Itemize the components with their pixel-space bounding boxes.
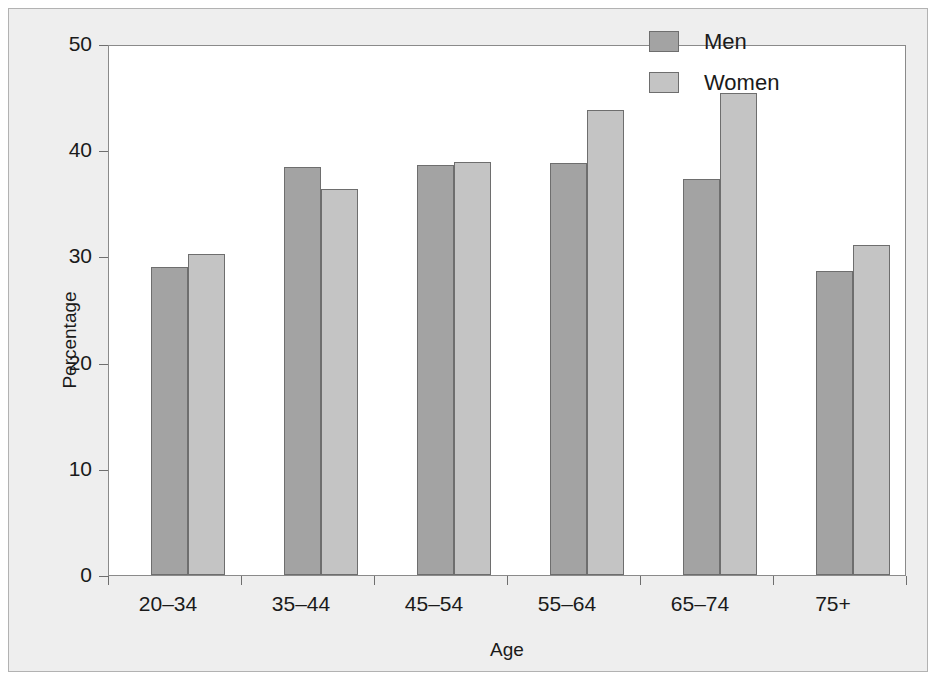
x-tick-mark (906, 576, 907, 585)
x-tick-label: 75+ (773, 592, 893, 616)
men-swatch (649, 31, 679, 52)
bar-women (720, 93, 757, 575)
y-tick-mark (99, 470, 108, 471)
legend-item: Women (649, 62, 799, 103)
bar-group (242, 46, 375, 575)
y-axis-tick: 30 (9, 257, 108, 258)
bar-women (188, 254, 225, 575)
x-tick-mark (507, 576, 508, 585)
bar-men (417, 165, 454, 575)
y-axis-tick: 10 (9, 470, 108, 471)
legend-item: Men (649, 21, 799, 62)
y-tick-label: 30 (69, 244, 92, 268)
x-tick-mark (773, 576, 774, 585)
y-tick-mark (99, 45, 108, 46)
plot-area (108, 45, 906, 576)
y-tick-label: 40 (69, 138, 92, 162)
x-tick-mark (374, 576, 375, 585)
x-tick-mark (108, 576, 109, 585)
bar-men (151, 267, 188, 575)
x-tick-label: 65–74 (640, 592, 760, 616)
bar-women (853, 245, 890, 575)
y-axis-tick: 40 (9, 151, 108, 152)
bar-men (683, 179, 720, 575)
y-tick-label: 50 (69, 32, 92, 56)
y-axis-tick: 50 (9, 45, 108, 46)
bar-men (550, 163, 587, 575)
y-tick-mark (99, 151, 108, 152)
x-axis: 20–3435–4445–5455–6465–7475+ (108, 576, 906, 616)
x-tick-label: 20–34 (108, 592, 228, 616)
y-tick-mark (99, 364, 108, 365)
y-axis-title: Percentage (59, 291, 81, 388)
bar-men (284, 167, 321, 575)
x-tick-label: 45–54 (374, 592, 494, 616)
chart-figure: 01020304050 Percentage 20–3435–4445–5455… (8, 8, 928, 672)
y-tick-label: 10 (69, 457, 92, 481)
y-tick-mark (99, 257, 108, 258)
bar-men (816, 271, 853, 575)
bar-group (375, 46, 508, 575)
x-tick-label: 55–64 (507, 592, 627, 616)
bar-group (774, 46, 907, 575)
y-tick-mark (99, 576, 108, 577)
bar-group (109, 46, 242, 575)
legend-item-label: Men (704, 29, 747, 55)
chart-legend: MenWomen (649, 21, 799, 103)
legend-item-label: Women (704, 70, 779, 96)
x-tick-mark (241, 576, 242, 585)
y-axis-tick: 0 (9, 576, 108, 577)
y-tick-label: 0 (80, 563, 92, 587)
x-tick-label: 35–44 (241, 592, 361, 616)
bar-group (641, 46, 774, 575)
women-swatch (649, 72, 679, 93)
x-tick-mark (640, 576, 641, 585)
bar-group (508, 46, 641, 575)
x-axis-title: Age (108, 639, 906, 661)
bar-women (321, 189, 358, 575)
bar-women (454, 162, 491, 575)
bar-women (587, 110, 624, 575)
